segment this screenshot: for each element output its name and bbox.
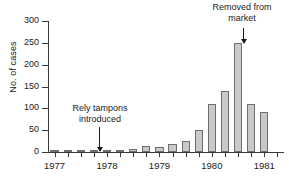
y-axis-tick-label: 200 <box>24 59 39 70</box>
x-axis-year-label: 1979 <box>149 160 170 171</box>
x-axis-tick <box>277 153 278 157</box>
x-axis-tick <box>94 153 95 157</box>
bar-chart: No. of cases 050100150200250300 19771978… <box>0 0 289 182</box>
y-axis-tick-label: 0 <box>34 146 39 157</box>
x-axis-tick <box>212 153 213 157</box>
bar <box>77 150 85 152</box>
bar <box>247 104 255 152</box>
x-axis-tick <box>173 153 174 157</box>
annotation-rely-tampons-introduced: Rely tampons introduced <box>57 103 143 125</box>
x-axis-line <box>48 152 284 153</box>
x-axis-tick <box>159 153 160 157</box>
bar <box>142 146 150 152</box>
y-axis-tick-label: 50 <box>29 124 39 135</box>
x-axis-year-label: 1980 <box>201 160 222 171</box>
y-axis-tick-label: 100 <box>24 102 39 113</box>
bar <box>221 91 229 152</box>
bar <box>129 149 137 152</box>
x-axis-tick <box>133 153 134 157</box>
annotation-arrow-removed-icon <box>243 28 244 40</box>
y-axis-tick-label: 150 <box>24 81 39 92</box>
x-axis-year-label: 1981 <box>254 160 275 171</box>
x-axis-tick <box>107 153 108 157</box>
x-axis-tick <box>199 153 200 157</box>
bar <box>64 150 72 152</box>
y-axis-title: No. of cases <box>8 27 18 107</box>
bar <box>168 144 176 152</box>
x-axis-year-label: 1978 <box>96 160 117 171</box>
x-axis-tick <box>55 153 56 157</box>
bar <box>103 150 111 152</box>
x-axis-tick <box>81 153 82 157</box>
bar <box>182 141 190 152</box>
bar <box>50 150 58 152</box>
x-axis-tick <box>251 153 252 157</box>
bar <box>208 104 216 152</box>
bar <box>116 150 124 152</box>
bar <box>234 43 242 152</box>
x-axis-year-label: 1977 <box>44 160 65 171</box>
x-axis-tick <box>186 153 187 157</box>
bar <box>260 112 268 152</box>
y-axis-tick-label: 300 <box>24 15 39 26</box>
x-axis-tick <box>225 153 226 157</box>
bar <box>155 147 163 152</box>
annotation-arrow-rely-icon <box>99 127 100 148</box>
plot-area <box>48 21 284 152</box>
x-axis-tick <box>146 153 147 157</box>
x-axis-tick <box>68 153 69 157</box>
x-axis-tick <box>238 153 239 157</box>
x-axis-tick <box>120 153 121 157</box>
y-axis-tick-label: 250 <box>24 37 39 48</box>
bar <box>195 130 203 152</box>
annotation-removed-from-market: Removed from market <box>196 2 288 24</box>
x-axis-tick <box>264 153 265 157</box>
